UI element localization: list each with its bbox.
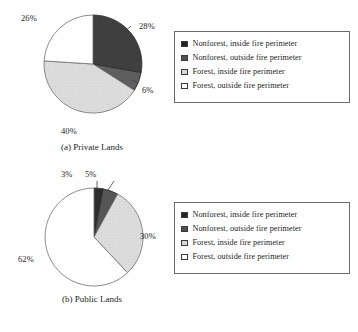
legend-label-nonforest-inside: Nonforest, inside fire perimeter xyxy=(193,40,298,48)
figure-public-lands: 3% 5% 30% 62% (b) Public Lands Nonforest… xyxy=(0,166,358,332)
legend-label-forest-inside: Forest, inside fire perimeter xyxy=(193,68,285,76)
pie-svg-public-lands xyxy=(44,187,144,287)
legend-swatch-nonforest-inside-icon xyxy=(181,41,188,48)
legend-label-nonforest-inside: Nonforest, inside fire perimeter xyxy=(193,211,298,219)
legend-public-lands: Nonforest, inside fire perimeter Nonfore… xyxy=(174,202,350,274)
pie-chart-private-lands xyxy=(43,14,143,114)
pie-label-forest-inside-a: 40% xyxy=(61,127,77,136)
caption-private-lands: (a) Private Lands xyxy=(2,143,182,152)
legend-swatch-forest-outside-icon xyxy=(181,83,188,90)
legend-label-forest-inside: Forest, inside fire perimeter xyxy=(193,239,285,247)
pie-svg-private-lands xyxy=(43,14,143,114)
legend-item-forest-inside[interactable]: Forest, inside fire perimeter xyxy=(181,236,342,250)
legend-label-forest-outside: Forest, outside fire perimeter xyxy=(193,82,290,90)
pie-label-forest-outside-a: 26% xyxy=(21,14,37,23)
pie-label-nonforest-outside-b: 5% xyxy=(85,170,97,179)
pie-slices-public-lands xyxy=(45,188,143,286)
legend-item-forest-inside[interactable]: Forest, inside fire perimeter xyxy=(181,65,342,79)
legend-label-nonforest-outside: Nonforest, outside fire perimeter xyxy=(193,225,302,233)
pie-chart-public-lands xyxy=(44,187,144,287)
legend-item-forest-outside[interactable]: Forest, outside fire perimeter xyxy=(181,79,342,93)
pie-label-nonforest-inside-a: 28% xyxy=(139,22,155,31)
figure-private-lands: 26% 28% 6% 40% (a) Private Lands Nonfore… xyxy=(0,0,358,166)
legend-item-nonforest-outside[interactable]: Nonforest, outside fire perimeter xyxy=(181,51,342,65)
pie-label-nonforest-inside-b: 3% xyxy=(61,170,73,179)
legend-swatch-nonforest-inside-icon xyxy=(181,212,188,219)
legend-swatch-nonforest-outside-icon xyxy=(181,55,188,62)
legend-label-forest-outside: Forest, outside fire perimeter xyxy=(193,253,290,261)
legend-swatch-nonforest-outside-icon xyxy=(181,226,188,233)
legend-swatch-forest-inside-icon xyxy=(181,240,188,247)
legend-swatch-forest-inside-icon xyxy=(181,69,188,76)
legend-private-lands: Nonforest, inside fire perimeter Nonfore… xyxy=(174,31,350,103)
pie-label-forest-inside-b: 30% xyxy=(140,232,156,241)
pie-label-forest-outside-b: 62% xyxy=(18,255,34,264)
legend-label-nonforest-outside: Nonforest, outside fire perimeter xyxy=(193,54,302,62)
pie-label-nonforest-outside-a: 6% xyxy=(142,86,154,95)
legend-item-nonforest-inside[interactable]: Nonforest, inside fire perimeter xyxy=(181,208,342,222)
slice-nonforest-inside xyxy=(93,15,142,73)
caption-public-lands: (b) Public Lands xyxy=(2,295,182,304)
legend-swatch-forest-outside-icon xyxy=(181,254,188,261)
legend-item-nonforest-inside[interactable]: Nonforest, inside fire perimeter xyxy=(181,37,342,51)
slice-forest-outside xyxy=(44,15,93,64)
legend-item-forest-outside[interactable]: Forest, outside fire perimeter xyxy=(181,250,342,264)
legend-item-nonforest-outside[interactable]: Nonforest, outside fire perimeter xyxy=(181,222,342,236)
